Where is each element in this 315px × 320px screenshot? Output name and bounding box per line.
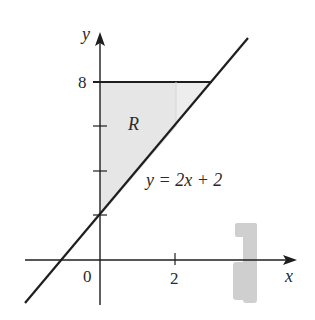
- x-axis-label: x: [284, 266, 293, 286]
- region-diagram: y x 0 2 8 R y = 2x + 2: [0, 0, 315, 320]
- y-axis-label: y: [80, 24, 90, 44]
- rotation-arrow-icon: [233, 223, 257, 303]
- y-tick-label-8: 8: [78, 73, 87, 92]
- region-strip: [100, 82, 176, 216]
- x-tick-label-2: 2: [170, 269, 179, 288]
- region-label: R: [127, 114, 139, 134]
- equation-label: y = 2x + 2: [144, 170, 222, 190]
- origin-label: 0: [83, 267, 92, 286]
